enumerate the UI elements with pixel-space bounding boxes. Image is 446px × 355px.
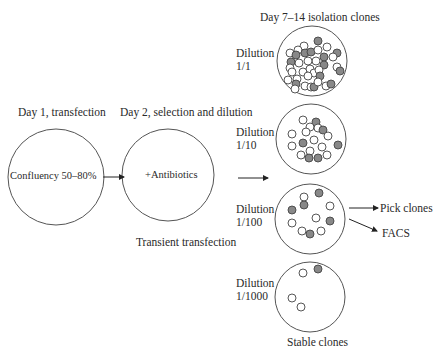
antibiotics-label: +Antibiotics	[145, 169, 198, 181]
day2-heading: Day 2, selection and dilution	[120, 106, 253, 119]
dilution-ratio: 1/10	[236, 139, 274, 152]
dilution-title: Dilution	[236, 277, 274, 290]
dilution-label-1: Dilution 1/1	[236, 47, 274, 73]
dilution-label-100: Dilution 1/100	[236, 203, 274, 229]
dilution-plate-1-100	[275, 184, 345, 254]
dilution-ratio: 1/1	[236, 60, 274, 73]
transient-transfection-label: Transient transfection	[136, 236, 236, 249]
dilution-plate-1-1000	[275, 262, 345, 332]
dilution-label-10: Dilution 1/10	[236, 126, 274, 152]
confluency-label: Confluency 50–80%	[10, 170, 97, 182]
dilution-title: Dilution	[236, 126, 274, 139]
clones-1-10	[288, 116, 342, 162]
dilution-ratio: 1/1000	[236, 290, 274, 303]
facs-label: FACS	[382, 227, 410, 240]
dilution-ratio: 1/100	[236, 216, 274, 229]
dilution-label-1000: Dilution 1/1000	[236, 277, 274, 303]
pick-clones-label: Pick clones	[380, 202, 433, 215]
clones-1-100	[288, 189, 334, 238]
day1-heading: Day 1, transfection	[18, 106, 106, 119]
dilution-title: Dilution	[236, 47, 274, 60]
clones-1-1000	[288, 265, 322, 311]
day7-heading: Day 7–14 isolation clones	[260, 11, 380, 24]
arrow-to-facs	[349, 219, 377, 231]
dilution-title: Dilution	[236, 203, 274, 216]
stable-clones-label: Stable clones	[287, 336, 348, 349]
clones-1-1	[284, 37, 344, 93]
